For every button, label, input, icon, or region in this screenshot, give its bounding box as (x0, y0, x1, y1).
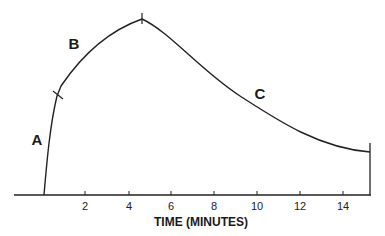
data-curve (44, 19, 370, 195)
tick-label: 6 (168, 200, 174, 212)
tick-label: 14 (337, 200, 349, 212)
chart: 2 4 6 8 10 12 14 TIME (MINUTES) A B C (0, 0, 385, 236)
tick-label: 4 (126, 200, 132, 212)
tick-label: 12 (294, 200, 306, 212)
x-tick-labels: 2 4 6 8 10 12 14 (82, 200, 349, 212)
tick-label: 2 (82, 200, 88, 212)
segment-label-c: C (255, 85, 266, 102)
tick-label: 8 (211, 200, 217, 212)
tick-label: 10 (251, 200, 263, 212)
x-axis-label: TIME (MINUTES) (154, 215, 248, 229)
segment-label-a: A (32, 131, 43, 148)
segment-label-b: B (69, 35, 80, 52)
